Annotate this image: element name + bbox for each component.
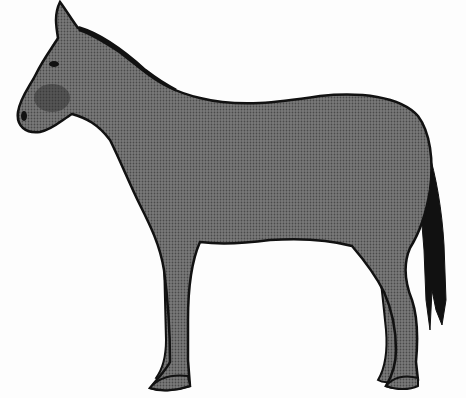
nostril (21, 111, 27, 121)
donkey-illustration (0, 0, 466, 398)
donkey-body (18, 2, 432, 390)
illustration-canvas (0, 0, 466, 398)
eye (49, 61, 59, 67)
muzzle-shading (34, 84, 70, 112)
